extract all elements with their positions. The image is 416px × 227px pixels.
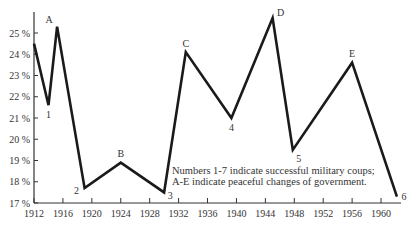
point-label-1: 1 xyxy=(46,109,51,120)
y-tick-label: 24 % xyxy=(9,49,30,60)
point-label-e: E xyxy=(349,48,355,59)
y-tick-label: 22 % xyxy=(9,91,30,102)
point-label-3: 3 xyxy=(168,190,173,201)
x-tick-label: 1940 xyxy=(226,208,246,219)
legend-line-2: A-E indicate peaceful changes of governm… xyxy=(172,176,367,187)
point-label-d: D xyxy=(277,7,284,18)
point-label-c: C xyxy=(182,38,189,49)
x-tick-label: 1924 xyxy=(111,208,131,219)
y-tick-label: 21 % xyxy=(9,113,30,124)
x-tick-label: 1932 xyxy=(169,208,189,219)
x-tick-label: 1960 xyxy=(371,208,391,219)
point-label-4: 4 xyxy=(229,122,234,133)
x-tick-label: 1928 xyxy=(140,208,160,219)
y-tick-label: 18 % xyxy=(9,176,30,187)
x-tick-label: 1944 xyxy=(255,208,275,219)
line-chart: 17 %18 %19 %20 %21 %22 %23 %24 %25 % 191… xyxy=(0,0,416,227)
x-tick-label: 1936 xyxy=(198,208,218,219)
point-label-b: B xyxy=(117,148,124,159)
point-label-a: A xyxy=(46,14,54,25)
point-label-2: 2 xyxy=(74,185,79,196)
x-tick-label: 1916 xyxy=(53,208,73,219)
x-tick-label: 1920 xyxy=(82,208,102,219)
point-label-6: 6 xyxy=(401,191,406,202)
legend-line-1: Numbers 1-7 indicate successful military… xyxy=(172,165,375,176)
y-tick-label: 19 % xyxy=(9,155,30,166)
x-tick-label: 1912 xyxy=(24,208,44,219)
x-tick-label: 1952 xyxy=(313,208,333,219)
y-tick-label: 23 % xyxy=(9,70,30,81)
y-tick-label: 17 % xyxy=(9,198,30,209)
y-tick-label: 20 % xyxy=(9,134,30,145)
point-label-5: 5 xyxy=(296,153,301,164)
y-tick-label: 25 % xyxy=(9,28,30,39)
x-tick-label: 1948 xyxy=(284,208,304,219)
x-tick-label: 1956 xyxy=(342,208,362,219)
x-axis-ticks: 1912191619201924192819321936194019441948… xyxy=(24,198,391,219)
